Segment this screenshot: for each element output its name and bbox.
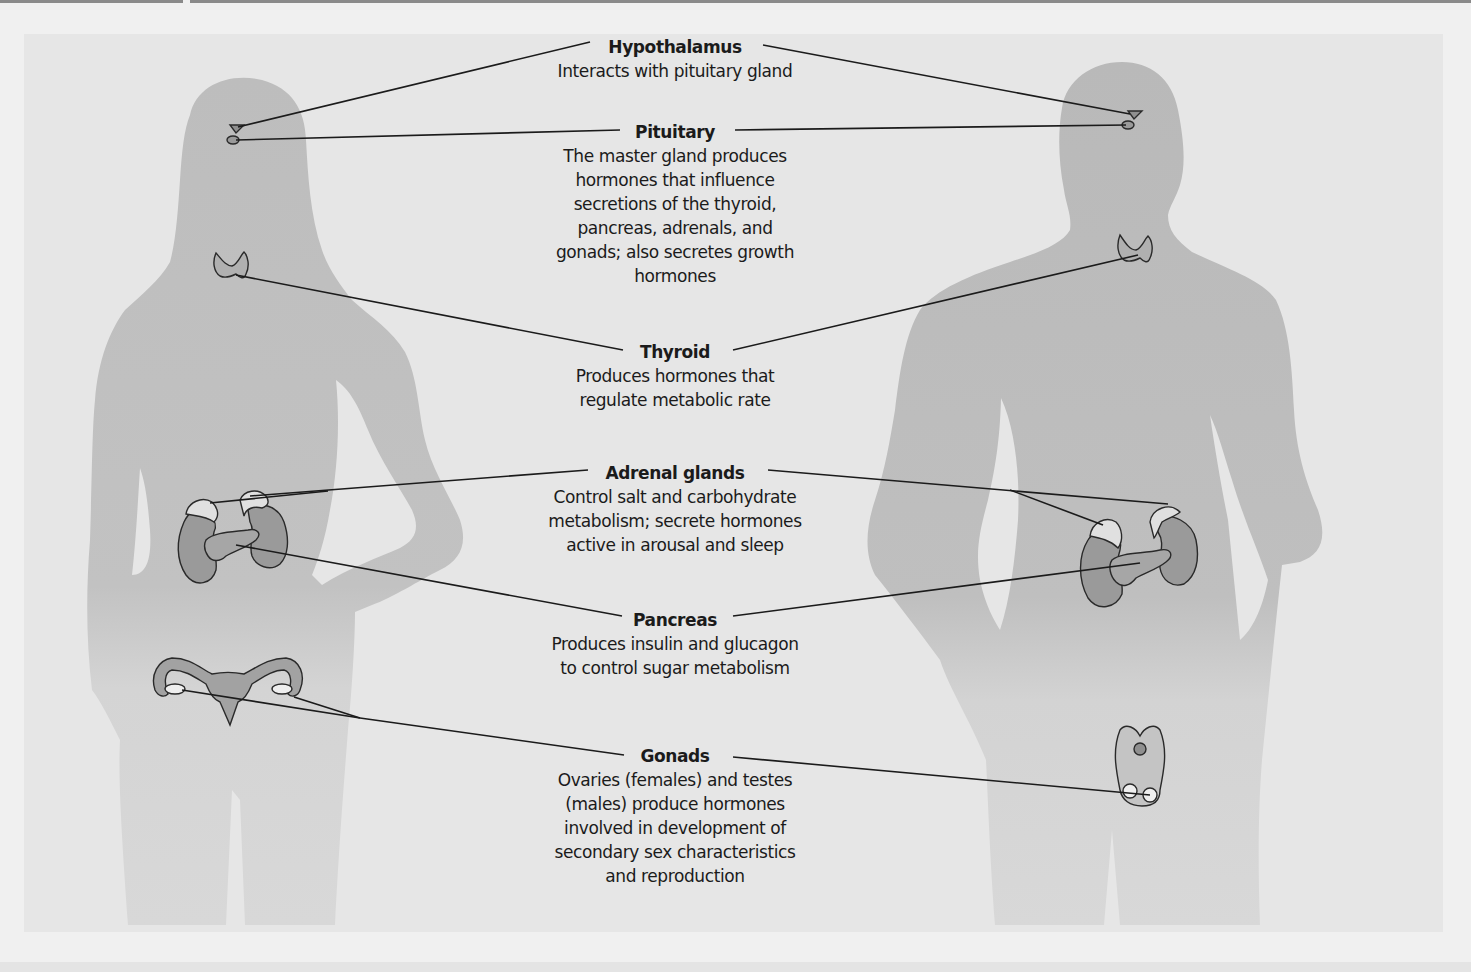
label-pancreas: Pancreas Produces insulin and glucagon t… — [475, 608, 875, 680]
label-thyroid: Thyroid Produces hormones that regulate … — [475, 340, 875, 412]
label-title: Pituitary — [475, 120, 875, 144]
label-title: Pancreas — [475, 608, 875, 632]
female-silhouette — [87, 78, 463, 925]
label-title: Hypothalamus — [475, 35, 875, 59]
label-description: Ovaries (females) and testes (males) pro… — [475, 768, 875, 888]
label-description: The master gland produces hormones that … — [475, 144, 875, 288]
label-pituitary: Pituitary The master gland produces horm… — [475, 120, 875, 288]
label-title: Thyroid — [475, 340, 875, 364]
label-description: Produces insulin and glucagon to control… — [475, 632, 875, 680]
label-title: Adrenal glands — [475, 461, 875, 485]
label-adrenal: Adrenal glands Control salt and carbohyd… — [475, 461, 875, 557]
label-hypothalamus: Hypothalamus Interacts with pituitary gl… — [475, 35, 875, 83]
label-title: Gonads — [475, 744, 875, 768]
label-description: Interacts with pituitary gland — [475, 59, 875, 83]
label-description: Control salt and carbohydrate metabolism… — [475, 485, 875, 557]
label-gonads: Gonads Ovaries (females) and testes (mal… — [475, 744, 875, 888]
label-description: Produces hormones that regulate metaboli… — [475, 364, 875, 412]
male-silhouette — [868, 62, 1323, 925]
